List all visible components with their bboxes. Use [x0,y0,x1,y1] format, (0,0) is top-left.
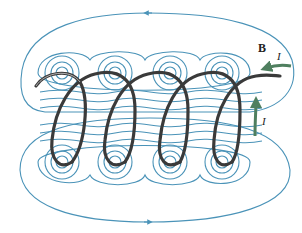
field-label-b: B [258,41,266,56]
solenoid-diagram [0,0,302,233]
bottom-cross-section-fields [45,145,239,179]
current-label-top: I [277,50,281,62]
current-label-side: I [262,115,266,127]
solenoid-wire [36,73,280,165]
field-lines [20,13,294,222]
current-arrow-top [266,65,291,68]
current-arrow-side [255,102,256,136]
